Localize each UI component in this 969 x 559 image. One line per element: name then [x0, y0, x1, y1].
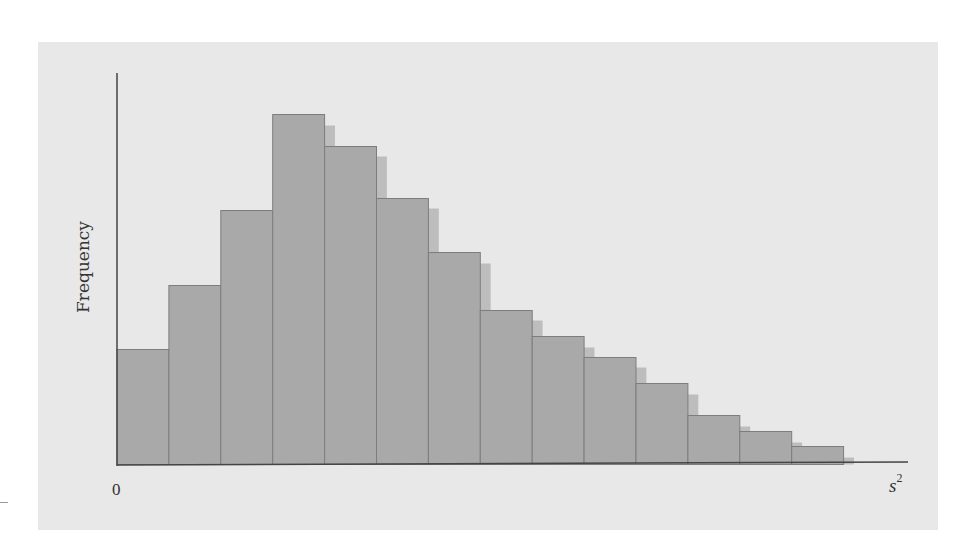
histogram-bars [117, 115, 844, 465]
histogram-bar [273, 115, 325, 465]
histogram-bar [169, 286, 221, 465]
y-axis-label: Frequency [73, 221, 93, 313]
histogram-bar [532, 337, 584, 465]
histogram-bar [636, 384, 688, 465]
histogram-bar [117, 350, 169, 465]
histogram-bar [740, 432, 792, 465]
histogram [0, 0, 969, 559]
histogram-bar [584, 358, 636, 465]
x-axis-label-superscript: 2 [896, 471, 902, 485]
histogram-bar [688, 416, 740, 465]
histogram-bar [377, 199, 429, 465]
histogram-bar [480, 311, 532, 465]
histogram-bar [428, 253, 480, 465]
histogram-bar [325, 147, 377, 465]
x-axis-label: s2 [889, 474, 902, 497]
histogram-bar [221, 211, 273, 465]
x-origin-label: 0 [112, 480, 121, 500]
